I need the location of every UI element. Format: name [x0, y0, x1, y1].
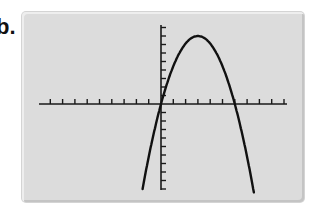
plot-area	[0, 0, 321, 209]
parabola-curve	[143, 36, 254, 192]
